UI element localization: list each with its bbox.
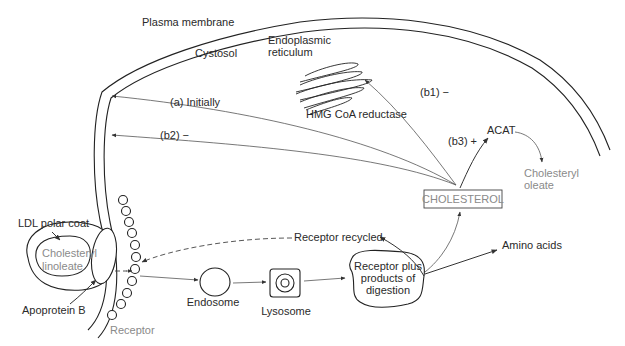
arrow-recycle-to-membrane xyxy=(142,238,292,262)
receptor-label: Receptor xyxy=(110,324,155,336)
regulation-b2-label: (b2) − xyxy=(160,129,189,141)
endosome-shape xyxy=(200,268,230,296)
digestion-label-line1: Receptor plus xyxy=(354,260,422,272)
er-label-line1: Endoplasmic xyxy=(268,34,331,46)
receptor-recycled-label: Receptor recycled xyxy=(294,231,383,243)
oleate-label-line1: Cholesteryl xyxy=(524,167,579,179)
digestion-label-line3: digestion xyxy=(366,284,410,296)
apoprotein-b-label: Apoprotein B xyxy=(22,304,86,316)
ldl-polar-coat-label: LDL polar coat xyxy=(18,217,89,229)
arrow-to-lysosome xyxy=(233,282,266,283)
regulation-b1-label: (b1) − xyxy=(420,86,449,98)
regulation-b3-label: (b3) + xyxy=(448,135,477,147)
arrow-to-endosome xyxy=(140,276,198,280)
plasma-membrane-label: Plasma membrane xyxy=(142,16,234,28)
oleate-label-line2: oleate xyxy=(524,179,554,191)
endosome-label: Endosome xyxy=(187,296,240,308)
acat-label: ACAT xyxy=(487,124,516,136)
arrow-to-digestion xyxy=(304,278,345,281)
cholesterol-label: CHOLESTEROL xyxy=(422,193,504,205)
digestion-label-line2: products of xyxy=(361,272,416,284)
amino-acids-label: Amino acids xyxy=(502,239,562,251)
endoplasmic-reticulum xyxy=(296,63,372,114)
arrow-to-cholesterol xyxy=(425,212,460,272)
ldl-core-line1: Cholesteryl xyxy=(42,247,97,259)
ldl-pathway-diagram: Plasma membrane Cystosol Endoplasmic ret… xyxy=(0,0,625,346)
ldl-core-line2: linoleate xyxy=(42,260,83,272)
arrow-acat-to-oleate xyxy=(515,132,542,162)
er-label-line2: reticulum xyxy=(268,46,313,58)
lysosome-label: Lysosome xyxy=(261,305,311,317)
cytosol-label: Cystosol xyxy=(195,47,237,59)
regulation-a-label: (a) Initially xyxy=(170,96,221,108)
hmg-coa-reductase-label: HMG CoA reductase xyxy=(306,108,407,120)
